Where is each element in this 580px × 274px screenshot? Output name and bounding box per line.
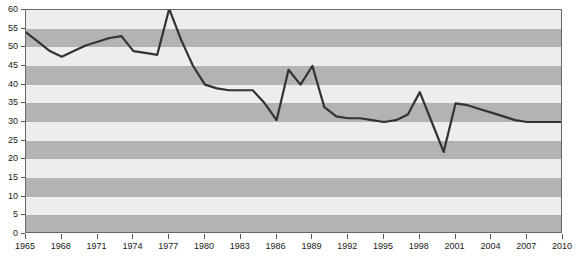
y-tick-label: 55 [0,24,18,33]
x-tick-label: 2007 [506,242,546,251]
y-tick-mark [21,196,25,197]
x-tick-label: 1971 [77,242,117,251]
x-tick-mark [311,234,312,239]
y-tick-label: 60 [0,5,18,14]
x-tick-label: 2004 [470,242,510,251]
plot-area [25,9,562,233]
y-tick-mark [21,46,25,47]
y-tick-mark [21,28,25,29]
x-tick-mark [204,234,205,239]
y-tick-label: 5 [0,210,18,219]
x-tick-mark [132,234,133,239]
y-tick-label: 50 [0,42,18,51]
y-tick-label: 20 [0,154,18,163]
x-tick-label: 1977 [148,242,188,251]
x-tick-label: 1965 [5,242,45,251]
y-tick-label: 0 [0,229,18,238]
x-tick-label: 1980 [184,242,224,251]
y-tick-mark [21,140,25,141]
chart-container: 051015202530354045505560 196519681971197… [0,0,580,274]
y-tick-mark [21,177,25,178]
x-tick-mark [276,234,277,239]
y-tick-label: 35 [0,98,18,107]
x-tick-mark [97,234,98,239]
x-tick-label: 1983 [220,242,260,251]
y-tick-label: 25 [0,136,18,145]
y-tick-label: 10 [0,192,18,201]
x-tick-mark [240,234,241,239]
x-tick-mark [490,234,491,239]
x-tick-label: 1968 [41,242,81,251]
x-tick-mark [25,234,26,239]
x-tick-mark [419,234,420,239]
x-tick-label: 1974 [112,242,152,251]
x-tick-label: 2001 [435,242,475,251]
y-tick-label: 45 [0,61,18,70]
x-tick-mark [526,234,527,239]
y-tick-label: 30 [0,117,18,126]
x-tick-mark [455,234,456,239]
y-tick-mark [21,9,25,10]
x-tick-label: 1986 [256,242,296,251]
x-tick-label: 1998 [399,242,439,251]
x-tick-mark [562,234,563,239]
y-tick-mark [21,84,25,85]
x-tick-label: 1995 [363,242,403,251]
x-tick-mark [383,234,384,239]
series-line-1 [26,10,562,152]
x-tick-label: 1989 [291,242,331,251]
y-tick-label: 15 [0,173,18,182]
y-tick-mark [21,102,25,103]
x-tick-mark [347,234,348,239]
x-tick-mark [61,234,62,239]
x-tick-mark [168,234,169,239]
y-tick-mark [21,65,25,66]
y-tick-mark [21,121,25,122]
series-line-layer [26,10,562,233]
x-tick-label: 2010 [542,242,580,251]
y-tick-label: 40 [0,80,18,89]
x-tick-label: 1992 [327,242,367,251]
y-tick-mark [21,158,25,159]
y-tick-mark [21,214,25,215]
